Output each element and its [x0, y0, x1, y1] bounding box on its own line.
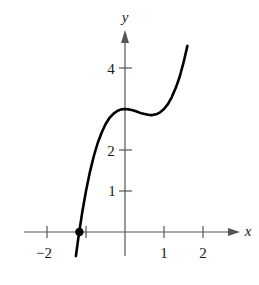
- x-intercept-point: [75, 228, 83, 236]
- function-curve: [76, 46, 187, 256]
- x-tick-label-1: 1: [160, 245, 168, 261]
- chart-canvas: −2 1 2 1 2 4 x y: [0, 0, 259, 285]
- y-tick-label-1: 1: [108, 183, 116, 199]
- y-axis-label: y: [120, 9, 129, 25]
- y-tick-label-4: 4: [107, 61, 115, 77]
- y-axis-arrow-icon: [121, 30, 129, 43]
- x-axis-arrow-icon: [228, 228, 240, 236]
- x-axis-label: x: [244, 223, 252, 239]
- x-tick-label-2: 2: [199, 245, 207, 261]
- x-tick-label-neg2: −2: [36, 245, 52, 261]
- y-tick-label-2: 2: [107, 143, 115, 159]
